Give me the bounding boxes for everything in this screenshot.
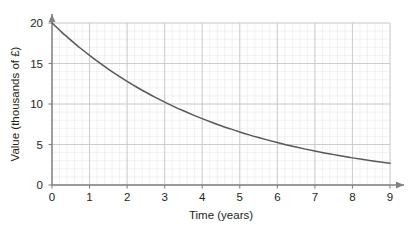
x-axis-tick-labels: 0123456789 (49, 191, 393, 203)
x-tick-label: 9 (387, 191, 393, 203)
x-tick-label: 7 (312, 191, 318, 203)
y-axis-tick-labels: 05101520 (30, 17, 43, 191)
y-tick-label: 15 (30, 58, 43, 70)
x-tick-label: 6 (274, 191, 280, 203)
x-tick-label: 4 (199, 191, 206, 203)
x-tick-label: 1 (86, 191, 92, 203)
data-series-curve (52, 23, 390, 163)
axis-lines (49, 14, 404, 188)
x-tick-label: 5 (237, 191, 243, 203)
x-tick-label: 8 (349, 191, 355, 203)
y-axis-title: Value (thousands of £) (9, 46, 21, 161)
y-tick-label: 5 (37, 139, 43, 151)
y-tick-label: 0 (37, 179, 43, 191)
y-tick-label: 20 (30, 17, 43, 29)
x-tick-label: 0 (49, 191, 55, 203)
value-decay-line-chart: 0123456789 05101520 Time (years) Value (… (0, 0, 420, 226)
x-tick-label: 3 (161, 191, 167, 203)
axis-ticks (49, 23, 391, 189)
x-tick-label: 2 (124, 191, 130, 203)
y-tick-label: 10 (30, 98, 43, 110)
x-axis-title: Time (years) (189, 209, 253, 221)
chart-container: 0123456789 05101520 Time (years) Value (… (0, 0, 420, 226)
